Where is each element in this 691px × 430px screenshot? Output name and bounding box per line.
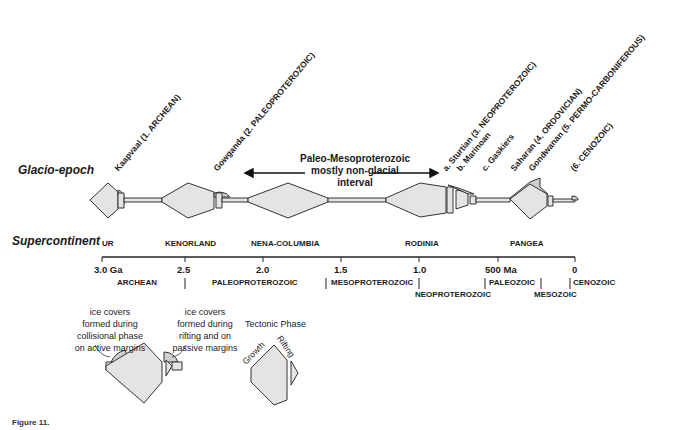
interval-note-line1: Paleo-Mesoproterozoic bbox=[290, 153, 420, 165]
tick-2-5: 2.5 bbox=[177, 264, 190, 275]
interval-note-line3: interval bbox=[290, 177, 420, 189]
era-cenozoic: CENOZOIC bbox=[573, 278, 615, 287]
supercontinent-kenorland: KENORLAND bbox=[165, 239, 216, 248]
era-paleozoic: PALEOZOIC bbox=[489, 278, 535, 287]
tick-1-0: 1.0 bbox=[413, 264, 426, 275]
legend-rifting-shape bbox=[291, 361, 298, 385]
legend-tectonic-phase-title: Tectonic Phase bbox=[245, 318, 306, 330]
kaapvaal-diamond bbox=[90, 183, 118, 218]
legend-rifting-text: ice covers formed during rifting and on … bbox=[160, 306, 250, 354]
supercontinent-ur: UR bbox=[102, 239, 114, 248]
glacio-epoch-label: Glacio-epoch bbox=[18, 163, 94, 177]
interval-note-line2: mostly non-glacial bbox=[290, 165, 420, 177]
tick-2-0: 2.0 bbox=[256, 264, 269, 275]
non-glacial-interval-note: Paleo-Mesoproterozoic mostly non-glacial… bbox=[290, 153, 420, 189]
diagram-graphics bbox=[0, 0, 691, 430]
tick-3-0-ga: 3.0 Ga bbox=[94, 264, 123, 275]
supercontinent-label: Supercontinent bbox=[12, 234, 100, 248]
legend-collisional-text: ice covers formed during collisional pha… bbox=[60, 306, 160, 354]
tick-500-ma: 500 Ma bbox=[485, 264, 517, 275]
era-mesoproterozoic: MESOPROTEROZOIC bbox=[331, 278, 413, 287]
era-archean: ARCHEAN bbox=[117, 278, 157, 287]
supercontinent-nena-columbia: NENA-COLUMBIA bbox=[251, 239, 319, 248]
tick-1-5: 1.5 bbox=[334, 264, 347, 275]
figure-caption: Figure 11. bbox=[12, 418, 49, 427]
era-paleoproterozoic: PALEOPROTEROZOIC bbox=[212, 278, 298, 287]
era-mesozoic: MESOZOIC bbox=[534, 290, 577, 299]
gowganda-diamond bbox=[162, 183, 214, 218]
era-neoproterozoic: NEOPROTEROZOIC bbox=[415, 290, 491, 299]
supercontinent-rodinia: RODINIA bbox=[405, 239, 439, 248]
tick-0: 0 bbox=[572, 264, 577, 275]
supercontinent-pangea: PANGEA bbox=[510, 239, 544, 248]
